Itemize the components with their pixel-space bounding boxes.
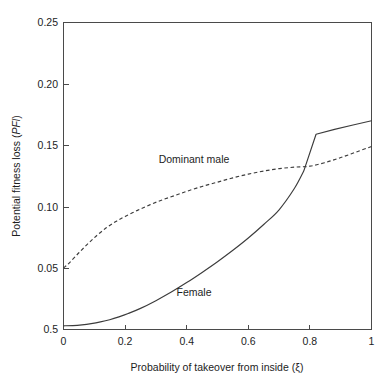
- y-axis-title-symbol: PFl: [10, 118, 22, 134]
- chart-canvas: 0.25 0.20 0.15 0.10 0.05 0.5 0 0.2 0.4 0…: [0, 0, 391, 384]
- y-tick-label-zero: 0.5: [43, 323, 58, 335]
- y-axis-ticks: [64, 23, 69, 330]
- x-tick-label-0.6: 0.6: [241, 335, 256, 347]
- x-tick-label-0: 0: [61, 335, 67, 347]
- x-tick-label-0.4: 0.4: [179, 335, 194, 347]
- y-axis-title: Potential fitness loss (PFl): [10, 115, 22, 236]
- chart-figure: 0.25 0.20 0.15 0.10 0.05 0.5 0 0.2 0.4 0…: [0, 0, 391, 384]
- y-axis-title-main: Potential fitness loss (: [10, 134, 22, 237]
- x-tick-label-1: 1: [369, 335, 375, 347]
- x-axis-ticks: [64, 325, 372, 330]
- plot-frame: [64, 23, 372, 330]
- y-tick-label-0.10: 0.10: [38, 201, 59, 213]
- series-label-female: Female: [176, 286, 211, 298]
- y-tick-label-0.20: 0.20: [38, 78, 59, 90]
- x-tick-label-0.8: 0.8: [303, 335, 318, 347]
- y-tick-label-0.15: 0.15: [38, 139, 59, 151]
- series-label-dominant-male: Dominant male: [159, 153, 230, 165]
- y-tick-label-0.05: 0.05: [38, 262, 59, 274]
- x-axis-title: Probability of takeover from inside (ξ): [131, 361, 304, 373]
- y-tick-label-0.25: 0.25: [38, 16, 59, 28]
- y-axis-title-tail: ): [10, 115, 22, 119]
- series-line-female: [64, 121, 372, 326]
- x-tick-label-0.2: 0.2: [118, 335, 133, 347]
- svg-text:Potential fitness loss (PFl): Potential fitness loss (PFl): [10, 115, 22, 236]
